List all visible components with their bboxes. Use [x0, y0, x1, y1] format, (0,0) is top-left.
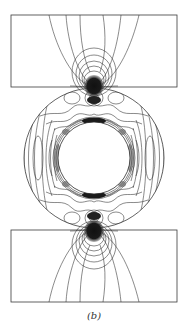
top-gap-lower-concentration — [87, 96, 101, 104]
contour-plot — [0, 0, 188, 329]
annulus-region — [24, 88, 164, 228]
figure-caption: (b) — [0, 310, 188, 321]
bottom-gap-upper-concentration — [87, 212, 101, 220]
contour-figure: (b) — [0, 0, 188, 329]
bottom-gap-concentration — [84, 220, 104, 242]
top-gap-concentration — [84, 75, 104, 97]
inner-circle — [58, 122, 130, 194]
